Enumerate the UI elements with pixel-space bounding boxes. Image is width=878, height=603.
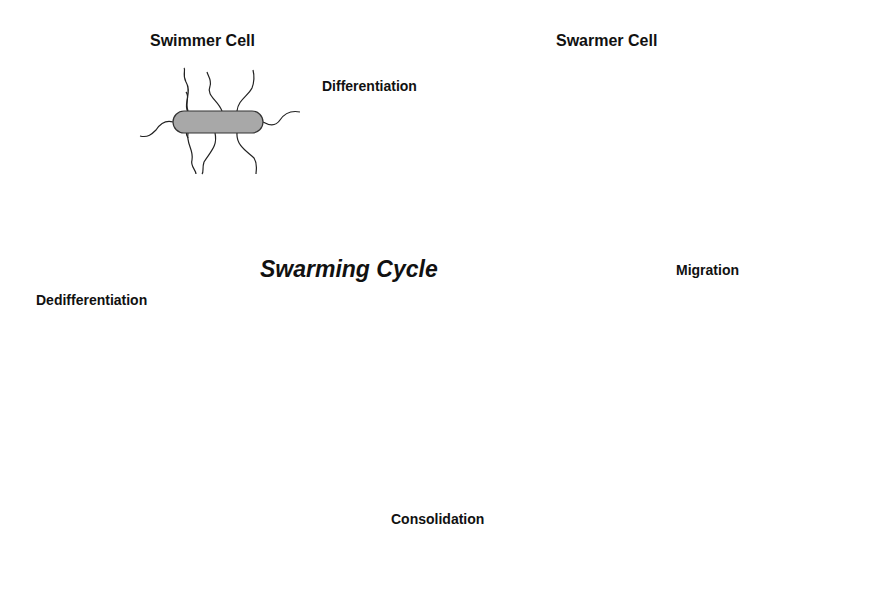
diagram-title: Swarming Cycle <box>260 256 438 283</box>
consolidation-label: Consolidation <box>391 511 484 527</box>
differentiation-label: Differentiation <box>322 78 417 94</box>
dedifferentiation-label: Dedifferentiation <box>36 292 147 308</box>
swarmer-cell-label: Swarmer Cell <box>556 32 657 50</box>
swimmer-cell-label: Swimmer Cell <box>150 32 255 50</box>
swimmer-cell <box>140 68 300 174</box>
migration-label: Migration <box>676 262 739 278</box>
